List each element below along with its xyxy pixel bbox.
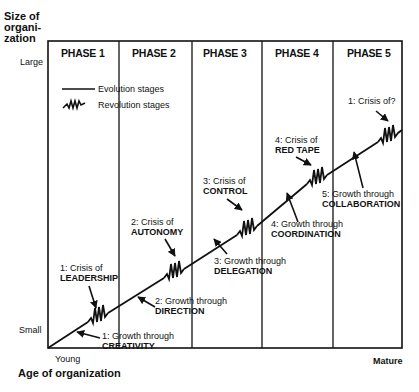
phase-4-header: PHASE 4	[275, 47, 319, 59]
growth-name: DIRECTION	[155, 307, 227, 317]
growth-num: 1: Growth through	[102, 331, 174, 341]
phase-1-header: PHASE 1	[61, 47, 105, 59]
crisis-label-1: 1: Crisis ofLEADERSHIP	[60, 264, 118, 283]
crisis-num: 1: Crisis of?	[348, 96, 396, 106]
phase-3-header: PHASE 3	[203, 47, 247, 59]
crisis-name: AUTONOMY	[131, 228, 183, 238]
legend-evolution-label: Evolution stages	[98, 85, 164, 95]
crisis-num: 2: Crisis of	[131, 217, 174, 227]
phase-5-header: PHASE 5	[347, 47, 391, 59]
growth-label-3: 3: Growth throughDELEGATION	[214, 257, 286, 276]
crisis-num: 3: Crisis of	[203, 176, 246, 186]
growth-label-4: 4: Growth throughCOORDINATION	[271, 220, 343, 239]
growth-name: CREATIVITY	[102, 342, 174, 352]
growth-name: COORDINATION	[271, 230, 343, 240]
growth-num: 4: Growth through	[271, 219, 343, 229]
crisis-label-3: 3: Crisis ofCONTROL	[203, 177, 248, 196]
legend-revolution-label: Revolution stages	[98, 101, 170, 111]
growth-num: 5: Growth through	[322, 189, 394, 199]
growth-name: COLLABORATION	[322, 200, 400, 210]
crisis-num: 1: Crisis of	[60, 263, 103, 273]
crisis-label-5: 1: Crisis of?	[348, 97, 396, 107]
crisis-label-2: 2: Crisis ofAUTONOMY	[131, 218, 183, 237]
crisis-name: LEADERSHIP	[60, 274, 118, 284]
growth-num: 3: Growth through	[214, 256, 286, 266]
growth-name: DELEGATION	[214, 267, 286, 277]
phase-2-header: PHASE 2	[132, 47, 176, 59]
growth-label-5: 5: Growth throughCOLLABORATION	[322, 190, 400, 209]
crisis-name: CONTROL	[203, 187, 248, 197]
crisis-num: 4: Crisis of	[275, 135, 318, 145]
growth-label-1: 1: Growth throughCREATIVITY	[102, 332, 174, 351]
growth-label-2: 2: Growth throughDIRECTION	[155, 297, 227, 316]
crisis-label-4: 4: Crisis ofRED TAPE	[275, 136, 320, 155]
growth-num: 2: Growth through	[155, 296, 227, 306]
crisis-name: RED TAPE	[275, 146, 320, 156]
